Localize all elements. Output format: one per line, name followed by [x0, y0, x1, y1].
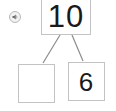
part-box-left-empty[interactable]	[18, 64, 55, 103]
number-bond-diagram: 10 6	[0, 0, 116, 111]
whole-number-value: 10	[48, 0, 84, 32]
connector-line-right	[72, 35, 83, 61]
speaker-audio-icon-glyph	[11, 13, 19, 21]
part-right-value: 6	[79, 69, 94, 95]
whole-number-box[interactable]: 10	[41, 0, 91, 35]
connector-line-left	[43, 35, 60, 63]
part-box-right[interactable]: 6	[68, 62, 105, 101]
speaker-audio-icon[interactable]	[9, 11, 21, 23]
